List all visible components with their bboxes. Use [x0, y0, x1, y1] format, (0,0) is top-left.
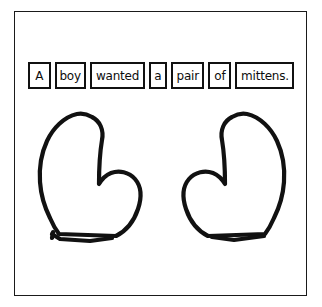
word-box-4[interactable]: a — [149, 62, 167, 89]
word-label: wanted — [96, 69, 139, 82]
mittens-illustration — [20, 108, 302, 258]
word-label: A — [35, 69, 43, 82]
word-label: mittens. — [241, 69, 289, 82]
word-label: boy — [60, 69, 81, 82]
sentence-word-box-row: A boy wanted a pair of mittens. — [28, 62, 294, 89]
word-label: of — [214, 69, 225, 82]
word-box-1[interactable]: A — [28, 62, 51, 89]
worksheet-page: A boy wanted a pair of mittens. — [0, 0, 322, 307]
word-box-3[interactable]: wanted — [90, 62, 145, 89]
word-box-5[interactable]: pair — [171, 62, 204, 89]
word-label: pair — [176, 69, 198, 82]
word-box-7[interactable]: mittens. — [235, 62, 294, 89]
left-mitten-icon — [34, 108, 152, 250]
word-box-2[interactable]: boy — [55, 62, 86, 89]
word-label: a — [154, 69, 161, 82]
right-mitten-icon — [172, 108, 290, 250]
word-box-6[interactable]: of — [208, 62, 231, 89]
